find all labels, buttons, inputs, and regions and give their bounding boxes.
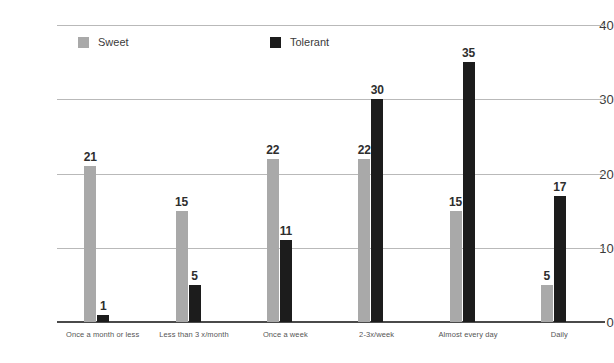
x-axis-category-label: 2-3x/week	[359, 330, 394, 339]
x-axis-category-label: Once a week	[263, 330, 308, 339]
x-axis-category-label: Almost every day	[438, 330, 497, 339]
bar-chart: 010203040 SweetTolerant 2111552211223015…	[0, 0, 614, 363]
x-axis-category-label: Once a month or less	[66, 330, 139, 339]
bar-sweet[interactable]	[541, 285, 553, 322]
x-axis-category-label: Daily	[551, 330, 568, 339]
bar-group: 517	[57, 25, 605, 322]
x-axis-category-label: Less than 3 x/month	[159, 330, 228, 339]
bar-tolerant[interactable]	[554, 196, 566, 322]
plot-area: 211155221122301535517	[57, 25, 605, 322]
bar-value-label: 5	[544, 269, 550, 283]
bar-value-label: 17	[553, 180, 566, 194]
